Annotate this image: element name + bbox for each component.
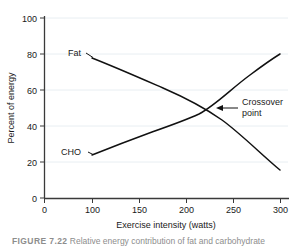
x-tick-label-100: 100 bbox=[85, 205, 100, 215]
y-tick-marks bbox=[40, 18, 44, 198]
y-tick-label-40: 40 bbox=[27, 122, 37, 132]
x-tick-label-200: 200 bbox=[179, 205, 194, 215]
series-label-cho: CHO bbox=[61, 147, 81, 157]
crossover-concept-chart: 100 80 60 40 20 0 0 100 150 200 250 300 … bbox=[0, 0, 302, 248]
y-tick-label-20: 20 bbox=[27, 158, 37, 168]
crossover-annotation: Crossover point bbox=[216, 97, 283, 118]
figure-container: 100 80 60 40 20 0 0 100 150 200 250 300 … bbox=[0, 0, 302, 248]
crossover-label-line1: Crossover bbox=[242, 97, 283, 107]
y-tick-label-0: 0 bbox=[32, 194, 37, 204]
y-axis-title: Percent of energy bbox=[6, 72, 16, 144]
x-axis-title: Exercise intensity (watts) bbox=[116, 220, 216, 230]
crossover-arrow-head bbox=[216, 105, 223, 111]
figure-caption-number: FIGURE 7.22 bbox=[12, 236, 67, 246]
series-leader-cho bbox=[88, 152, 93, 155]
x-tick-label-250: 250 bbox=[226, 205, 241, 215]
x-tick-label-150: 150 bbox=[132, 205, 147, 215]
y-tick-label-60: 60 bbox=[27, 86, 37, 96]
x-tick-label-0: 0 bbox=[42, 205, 47, 215]
series-label-fat: Fat bbox=[68, 48, 82, 58]
x-tick-label-300: 300 bbox=[273, 205, 288, 215]
figure-caption-text: Relative energy contribution of fat and … bbox=[70, 236, 265, 246]
crossover-label-line2: point bbox=[242, 108, 262, 118]
y-tick-label-80: 80 bbox=[27, 50, 37, 60]
y-tick-label-100: 100 bbox=[22, 14, 37, 24]
figure-caption: FIGURE 7.22 Relative energy contribution… bbox=[12, 236, 300, 246]
